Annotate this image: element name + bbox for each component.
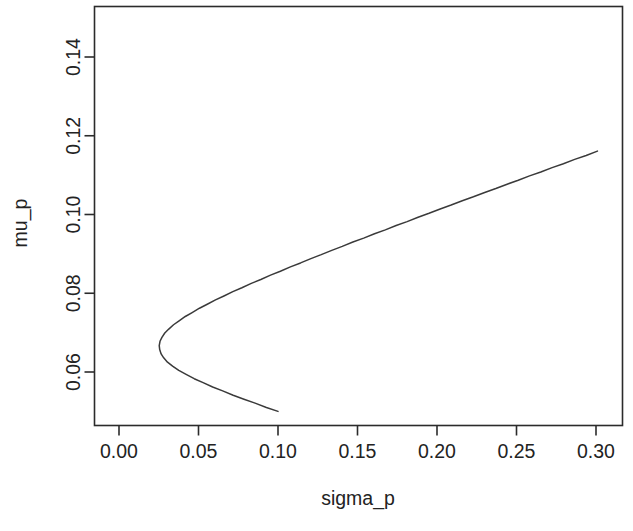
x-tick-label: 0.25 [498,440,536,462]
x-axis-ticks [119,426,596,436]
y-tick-label: 0.10 [62,195,84,233]
x-tick-label: 0.30 [577,440,615,462]
y-tick-label: 0.08 [62,274,84,312]
y-tick-label: 0.12 [62,117,84,155]
x-tick-label: 0.20 [418,440,456,462]
x-tick-label: 0.05 [180,440,218,462]
y-axis-title: mu_p [9,198,32,247]
y-axis-ticks [85,57,95,372]
plot-frame [95,7,623,426]
y-tick-label: 0.06 [62,353,84,391]
frontier-curve [159,151,597,411]
chart-container: 0.000.050.100.150.200.250.30 0.060.080.1… [0,0,633,531]
x-tick-label: 0.00 [100,440,138,462]
x-tick-label: 0.15 [339,440,377,462]
y-tick-label: 0.14 [62,38,84,76]
efficient-frontier-chart: 0.000.050.100.150.200.250.30 0.060.080.1… [0,0,633,531]
y-axis-tick-labels: 0.060.080.100.120.14 [62,38,84,391]
x-tick-label: 0.10 [259,440,297,462]
x-axis-tick-labels: 0.000.050.100.150.200.250.30 [100,440,615,462]
x-axis-title: sigma_p [321,487,395,510]
